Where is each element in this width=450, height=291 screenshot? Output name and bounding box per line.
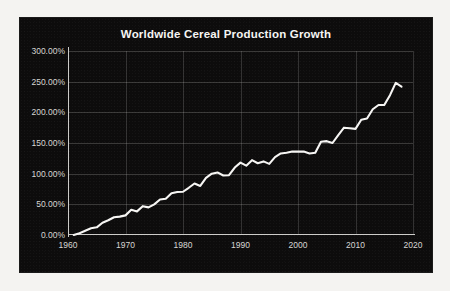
- line-series-cereal-production-growth: [68, 51, 413, 235]
- x-axis-tick-label: 1980: [174, 240, 193, 250]
- x-axis-tick-label: 1960: [59, 240, 78, 250]
- x-axis-tick-labels: 1960197019801990200020102020: [68, 240, 413, 254]
- gridline-vertical: [413, 51, 414, 235]
- y-axis-tick-label: 300.00%: [31, 46, 65, 56]
- x-axis-tick-label: 2020: [404, 240, 423, 250]
- plot-area: [68, 51, 413, 235]
- x-axis-tick-label: 2000: [289, 240, 308, 250]
- y-axis-tick-label: 100.00%: [31, 169, 65, 179]
- x-axis-tick-label: 1970: [116, 240, 135, 250]
- y-axis-tick-label: 150.00%: [31, 138, 65, 148]
- y-axis-tick-label: 200.00%: [31, 107, 65, 117]
- x-axis-tick-label: 2010: [346, 240, 365, 250]
- y-axis-tick-label: 50.00%: [36, 199, 65, 209]
- chart-page: Worldwide Cereal Production Growth 0.00%…: [0, 0, 450, 291]
- chart-panel: Worldwide Cereal Production Growth 0.00%…: [20, 18, 432, 272]
- y-axis-tick-label: 250.00%: [31, 77, 65, 87]
- x-axis-tick-label: 1990: [231, 240, 250, 250]
- y-axis-tick-label: 0.00%: [41, 230, 65, 240]
- chart-title: Worldwide Cereal Production Growth: [20, 28, 432, 40]
- y-axis-tick-labels: 0.00%50.00%100.00%150.00%200.00%250.00%3…: [20, 51, 65, 235]
